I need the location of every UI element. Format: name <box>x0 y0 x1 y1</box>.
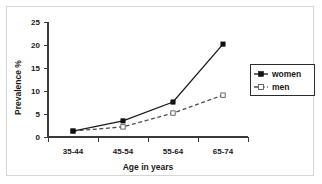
x-axis-ticks <box>48 137 248 142</box>
data-point-men-55-64 <box>171 111 175 115</box>
x-tick-label-55-64: 55-64 <box>163 147 184 156</box>
data-point-women-35-44 <box>71 129 75 133</box>
y-tick-label-10: 10 <box>31 87 40 96</box>
chart-legend: women men <box>250 64 314 95</box>
legend-marker-women <box>259 72 264 77</box>
plot-wrapper: 25 20 15 10 5 0 Prevalence % 35-44 45-54… <box>0 0 322 184</box>
legend-label-women: women <box>271 69 301 79</box>
data-point-men-45-54 <box>121 125 125 129</box>
y-tick-label-20: 20 <box>31 41 40 50</box>
y-axis-title: Prevalence % <box>13 60 23 115</box>
legend-marker-men <box>259 85 264 90</box>
line-chart: 25 20 15 10 5 0 Prevalence % 35-44 45-54… <box>0 0 322 184</box>
series-line-men <box>73 95 223 131</box>
y-tick-label-15: 15 <box>31 64 40 73</box>
chart-figure: 25 20 15 10 5 0 Prevalence % 35-44 45-54… <box>0 0 322 184</box>
y-axis-ticks <box>44 22 48 137</box>
y-tick-label-25: 25 <box>31 18 40 27</box>
data-point-men-65-74 <box>221 93 225 97</box>
x-tick-label-45-54: 45-54 <box>113 147 134 156</box>
x-tick-label-35-44: 35-44 <box>63 147 84 156</box>
data-point-women-45-54 <box>121 119 125 123</box>
x-axis-title: Age in years <box>123 162 174 172</box>
y-tick-label-0: 0 <box>36 133 41 142</box>
y-tick-label-5: 5 <box>36 110 41 119</box>
legend-label-men: men <box>272 82 289 92</box>
data-point-women-55-64 <box>171 100 175 104</box>
series-line-women <box>73 44 223 131</box>
x-tick-label-65-74: 65-74 <box>213 147 234 156</box>
data-point-women-65-74 <box>221 42 225 46</box>
